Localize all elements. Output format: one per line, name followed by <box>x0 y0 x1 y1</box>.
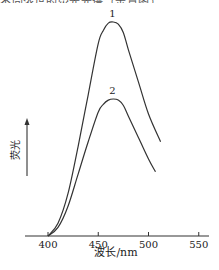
x-tick-label: 500 <box>139 239 158 250</box>
y-axis-label-group: 荧光 <box>9 118 30 176</box>
spectrum-curve-1 <box>48 22 161 236</box>
y-axis-label: 荧光 <box>9 140 21 160</box>
curve-label-2: 2 <box>109 85 115 96</box>
arrow-up-icon <box>25 118 30 125</box>
x-axis-label: 波长/nm <box>94 246 138 259</box>
curve-label-1: 1 <box>109 8 115 19</box>
x-tick-label: 550 <box>189 239 208 250</box>
spectrum-curves: 12 <box>48 8 161 236</box>
fluorescence-spectrum-chart: 400450500550 12 荧光 波长/nm <box>0 0 219 270</box>
x-tick-label: 400 <box>38 239 57 250</box>
spectrum-curve-2 <box>48 99 156 236</box>
